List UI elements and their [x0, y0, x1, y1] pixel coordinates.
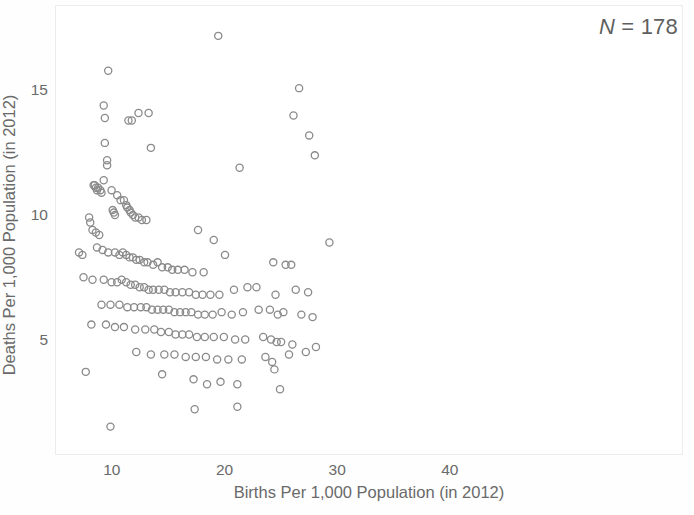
scatter-point — [102, 321, 109, 328]
scatter-point — [202, 353, 209, 360]
scatter-point — [135, 109, 142, 116]
scatter-point — [311, 152, 318, 159]
x-axis-title: Births Per 1,000 Population (in 2012) — [55, 483, 683, 502]
scatter-point — [147, 351, 154, 358]
scatter-point — [182, 353, 189, 360]
scatter-point — [210, 333, 217, 340]
scatter-point — [171, 351, 178, 358]
scatter-point — [100, 177, 107, 184]
scatter-point — [260, 333, 267, 340]
scatter-point — [159, 371, 166, 378]
plot-data-area — [56, 6, 682, 454]
scatter-point — [266, 306, 273, 313]
scatter-point — [105, 67, 112, 74]
scatter-point — [98, 301, 105, 308]
scatter-point — [244, 284, 251, 291]
scatter-point — [285, 351, 292, 358]
scatter-point — [190, 376, 197, 383]
scatter-point — [100, 276, 107, 283]
x-tick-label: 20 — [216, 461, 233, 479]
scatter-point — [161, 351, 168, 358]
scatter-point — [100, 102, 107, 109]
scatter-point — [142, 326, 149, 333]
scatter-point — [209, 311, 216, 318]
scatter-point — [86, 214, 93, 221]
plot-frame — [55, 5, 683, 455]
scatter-point — [107, 423, 114, 430]
scatter-point — [192, 353, 199, 360]
scatter-point — [239, 309, 246, 316]
scatter-point — [215, 32, 222, 39]
scatter-point — [296, 85, 303, 92]
scatter-point — [309, 314, 316, 321]
scatter-point — [214, 356, 221, 363]
sample-size-annotation: N = 178 — [599, 14, 678, 40]
x-tick-label: 30 — [329, 461, 346, 479]
scatter-point — [132, 326, 139, 333]
scatter-point — [191, 406, 198, 413]
scatter-point — [216, 291, 223, 298]
scatter-point — [326, 239, 333, 246]
scatter-point — [201, 333, 208, 340]
scatter-point — [193, 333, 200, 340]
scatter-point — [103, 162, 110, 169]
scatter-point — [276, 386, 283, 393]
scatter-point — [234, 403, 241, 410]
scatter-point — [228, 311, 235, 318]
scatter-point — [218, 309, 225, 316]
scatter-point — [116, 301, 123, 308]
scatter-point — [133, 348, 140, 355]
scatter-point — [289, 341, 296, 348]
scatter-points-layer — [56, 6, 682, 454]
scatter-point — [271, 366, 278, 373]
scatter-point — [80, 274, 87, 281]
scatter-point — [302, 348, 309, 355]
scatter-point — [111, 323, 118, 330]
scatter-point — [200, 269, 207, 276]
y-tick-label: 5 — [39, 331, 48, 349]
scatter-point — [225, 356, 232, 363]
scatter-point — [298, 311, 305, 318]
scatter-point — [255, 306, 262, 313]
scatter-point — [87, 219, 94, 226]
scatter-point — [253, 284, 260, 291]
scatter-point — [217, 378, 224, 385]
scatter-point — [272, 291, 279, 298]
scatter-point — [82, 368, 89, 375]
scatter-point — [242, 336, 249, 343]
scatter-plot-figure: N = 178 10203040 51015 Births Per 1,000 … — [0, 0, 694, 515]
y-axis-title: Deaths Per 1,000 Population (in 2012) — [0, 10, 20, 460]
scatter-point — [230, 286, 237, 293]
scatter-point — [88, 321, 95, 328]
scatter-point — [147, 144, 154, 151]
y-tick-label: 10 — [31, 206, 48, 224]
x-tick-label: 40 — [441, 461, 458, 479]
scatter-point — [306, 132, 313, 139]
scatter-point — [89, 276, 96, 283]
scatter-point — [101, 139, 108, 146]
sample-size-value: = 178 — [615, 14, 678, 39]
scatter-point — [189, 269, 196, 276]
scatter-point — [269, 358, 276, 365]
scatter-point — [232, 336, 239, 343]
scatter-point — [270, 259, 277, 266]
scatter-point — [145, 109, 152, 116]
scatter-point — [120, 323, 127, 330]
scatter-point — [304, 289, 311, 296]
scatter-point — [221, 251, 228, 258]
scatter-point — [220, 333, 227, 340]
scatter-point — [194, 226, 201, 233]
scatter-point — [203, 381, 210, 388]
y-tick-label: 15 — [31, 81, 48, 99]
scatter-point — [290, 112, 297, 119]
scatter-point — [234, 381, 241, 388]
scatter-point — [312, 343, 319, 350]
scatter-point — [292, 286, 299, 293]
scatter-point — [236, 164, 243, 171]
scatter-point — [157, 328, 164, 335]
scatter-point — [262, 353, 269, 360]
sample-size-symbol: N — [599, 14, 615, 39]
scatter-point — [101, 114, 108, 121]
x-tick-label: 10 — [103, 461, 120, 479]
scatter-point — [107, 301, 114, 308]
